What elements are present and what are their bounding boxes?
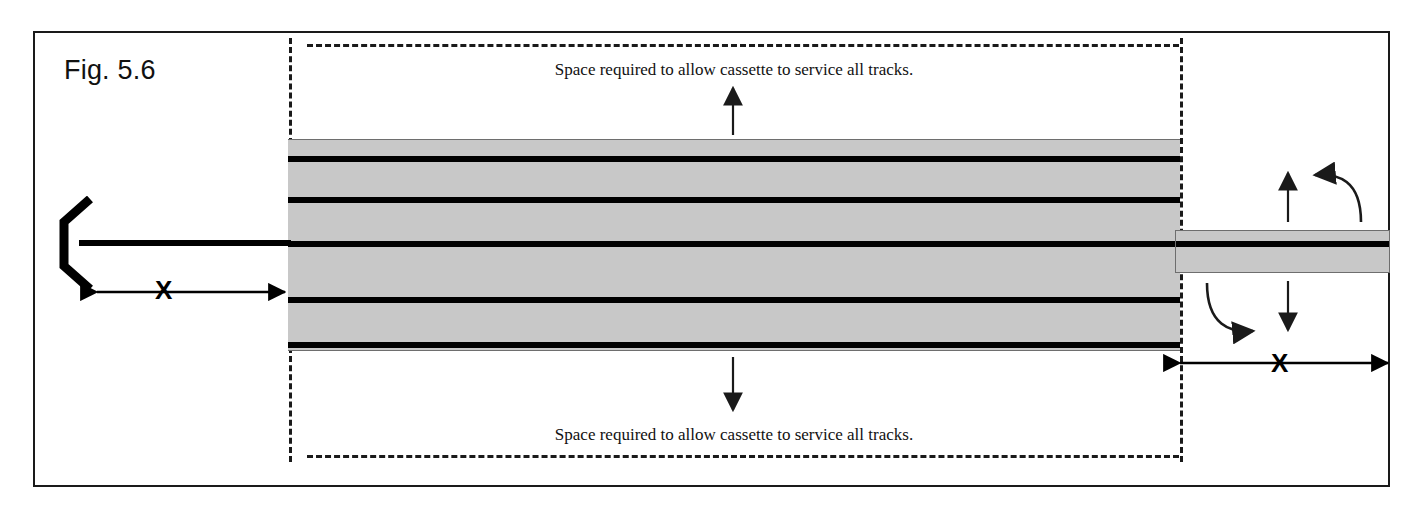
- buffer-stop-bracket: [56, 196, 96, 292]
- clearance-caption-bottom: Space required to allow cassette to serv…: [288, 425, 1180, 445]
- transfer-cassette: [1175, 230, 1390, 273]
- rail-track-4: [288, 297, 1180, 303]
- rail-track-5: [288, 342, 1180, 348]
- dimension-label-x-right: X: [1262, 350, 1297, 376]
- rail-track-3: [288, 241, 1180, 247]
- clearance-caption-top: Space required to allow cassette to serv…: [288, 60, 1180, 80]
- clearance-boundary-bottom: [307, 455, 1179, 458]
- clearance-boundary-top: [307, 44, 1179, 47]
- lead-rail: [79, 240, 291, 246]
- track-yard: [288, 139, 1180, 351]
- rail-track-1: [288, 156, 1180, 162]
- cassette-rail: [1176, 241, 1389, 247]
- rail-track-2: [288, 197, 1180, 203]
- figure-number-label: Fig. 5.6: [64, 55, 156, 86]
- figure-canvas: Fig. 5.6 Space required to allow cassett…: [0, 0, 1420, 516]
- dimension-label-x-left: X: [146, 277, 181, 303]
- buffer-stop-icon: [56, 196, 96, 292]
